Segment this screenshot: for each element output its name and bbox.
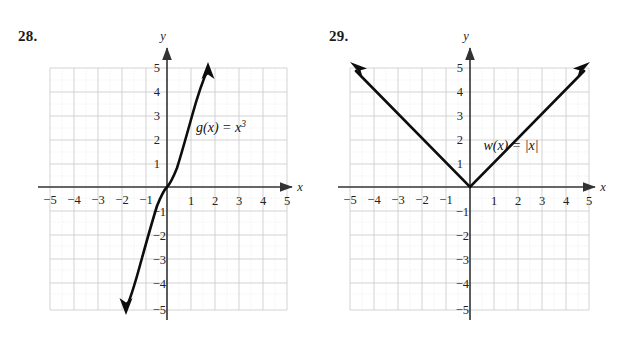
y-tick-1-28: 1 xyxy=(154,157,160,171)
function-label-29: w(x) = |x| xyxy=(483,138,538,154)
y-tick-neg5-28: −5 xyxy=(153,303,166,317)
x-axis-name-29: x xyxy=(599,180,606,194)
x-tick-neg2-28: −2 xyxy=(115,193,128,207)
y-tick-3-28: 3 xyxy=(154,109,160,123)
y-tick-neg4-28: −4 xyxy=(153,277,167,291)
y-tick-3-29: 3 xyxy=(457,109,463,123)
y-tick-1-29: 1 xyxy=(457,157,463,171)
x-tick-3-28: 3 xyxy=(236,194,242,208)
x-tick-2-28: 2 xyxy=(212,194,218,208)
x-tick-neg2-29: −2 xyxy=(415,193,428,207)
x-tick-neg1-29: −1 xyxy=(439,193,452,207)
y-tick-5-29: 5 xyxy=(457,61,463,75)
x-tick-1-29: 1 xyxy=(491,194,497,208)
curve-arrow-down-28 xyxy=(120,298,133,315)
x-tick-neg3-28: −3 xyxy=(91,193,104,207)
function-label-28: g(x) = x3 xyxy=(196,119,246,136)
y-tick-neg4-29: −4 xyxy=(456,277,470,291)
function-label-28-base: g(x) = x xyxy=(196,120,242,136)
y-tick-2-29: 2 xyxy=(457,133,463,147)
y-tick-neg2-29: −2 xyxy=(456,229,469,243)
plot-29: x y −5 −4 −3 −2 −1 1 2 3 4 5 5 4 3 2 1 −… xyxy=(311,0,621,344)
y-axis-name-29: y xyxy=(461,29,469,43)
function-label-28-exponent: 3 xyxy=(240,119,246,129)
x-tick-5-29: 5 xyxy=(586,194,592,208)
x-tick-neg1-28: −1 xyxy=(139,193,152,207)
figure-29: 29. xyxy=(311,0,621,344)
x-tick-neg5-29: −5 xyxy=(343,193,356,207)
x-tick-neg3-29: −3 xyxy=(391,193,404,207)
major-grid-28 xyxy=(50,68,287,310)
plot-28: x y −5 −4 −3 −2 −1 1 2 3 4 5 5 4 3 2 1 −… xyxy=(0,0,310,344)
x-tick-4-28: 4 xyxy=(260,194,267,208)
y-tick-4-28: 4 xyxy=(154,85,161,99)
x-tick-4-29: 4 xyxy=(563,194,570,208)
y-tick-neg3-28: −3 xyxy=(153,253,166,267)
y-tick-neg1-29: −1 xyxy=(456,205,469,219)
figure-28: 28. xyxy=(0,0,310,344)
x-axis-name-28: x xyxy=(296,180,303,194)
x-tick-5-28: 5 xyxy=(284,194,290,208)
x-tick-1-28: 1 xyxy=(188,194,194,208)
y-tick-2-28: 2 xyxy=(154,133,160,147)
y-tick-neg5-29: −5 xyxy=(456,303,469,317)
x-tick-neg4-29: −4 xyxy=(367,193,381,207)
y-tick-5-28: 5 xyxy=(154,61,160,75)
curve-arrow-up-28 xyxy=(202,62,215,79)
worksheet-page: 28. xyxy=(0,0,621,344)
x-tick-neg5-28: −5 xyxy=(43,193,56,207)
y-tick-4-29: 4 xyxy=(457,85,464,99)
x-tick-2-29: 2 xyxy=(515,194,521,208)
y-tick-neg3-29: −3 xyxy=(456,253,469,267)
x-tick-3-29: 3 xyxy=(539,194,545,208)
x-tick-neg4-28: −4 xyxy=(67,193,81,207)
y-axis-name-28: y xyxy=(158,29,166,43)
minor-grid-28 xyxy=(50,68,287,310)
y-tick-neg2-28: −2 xyxy=(153,229,166,243)
